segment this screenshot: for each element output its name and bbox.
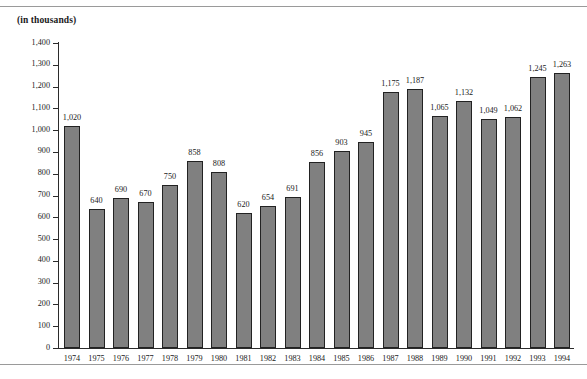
bar-item[interactable]: 1,1321990 — [456, 0, 472, 348]
bar-value-label: 670 — [139, 190, 151, 198]
y-axis-tick — [53, 217, 59, 218]
bar-value-label: 808 — [213, 160, 225, 168]
bar-rect[interactable] — [162, 185, 178, 348]
bar-rect[interactable] — [334, 151, 350, 348]
bar-value-label: 1,175 — [381, 80, 399, 88]
bar-value-label: 945 — [360, 130, 372, 138]
x-axis-category-label: 1976 — [113, 355, 129, 363]
bar-item[interactable]: 6201981 — [236, 0, 252, 348]
bar-rect[interactable] — [358, 142, 374, 348]
y-axis-tick-label: 200 — [2, 300, 50, 308]
y-axis-tick — [53, 196, 59, 197]
bar-value-label: 620 — [237, 201, 249, 209]
bar-rect[interactable] — [138, 202, 154, 348]
y-axis-tick-label: 1,000 — [2, 126, 50, 134]
bar-rect[interactable] — [113, 198, 129, 348]
bar-value-label: 1,020 — [63, 114, 81, 122]
y-axis-tick-label: 600 — [2, 213, 50, 221]
y-axis-tick-label: 300 — [2, 278, 50, 286]
bar-rect[interactable] — [236, 213, 252, 348]
bar-rect[interactable] — [456, 101, 472, 348]
bar-item[interactable]: 9031985 — [334, 0, 350, 348]
y-axis-tick — [53, 152, 59, 153]
bar-item[interactable]: 9451986 — [358, 0, 374, 348]
bar-item[interactable]: 1,2451993 — [530, 0, 546, 348]
y-axis-tick — [53, 130, 59, 131]
bar-item[interactable]: 7501978 — [162, 0, 178, 348]
bar-item[interactable]: 6401975 — [89, 0, 105, 348]
bar-item[interactable]: 6901976 — [113, 0, 129, 348]
bar-value-label: 858 — [188, 149, 200, 157]
y-axis-tick-label: 800 — [2, 169, 50, 177]
bar-item[interactable]: 1,2631994 — [554, 0, 570, 348]
y-axis-tick-label-wrap: 300 — [0, 278, 50, 288]
y-axis-tick-label: 400 — [2, 256, 50, 264]
bar-value-label: 691 — [286, 185, 298, 193]
y-axis-tick-label-wrap: 100 — [0, 322, 50, 332]
bar-item[interactable]: 6701977 — [138, 0, 154, 348]
bar-rect[interactable] — [505, 117, 521, 348]
bar-item[interactable]: 1,1751987 — [383, 0, 399, 348]
bar-rect[interactable] — [285, 197, 301, 348]
y-axis-tick — [53, 174, 59, 175]
bar-chart-plot: 1,4001,3001,2001,1001,000900800700600500… — [0, 0, 587, 379]
y-axis-tick-label: 1,400 — [2, 39, 50, 47]
y-axis-tick — [53, 108, 59, 109]
bar-item[interactable]: 1,0491991 — [481, 0, 497, 348]
y-axis-tick — [53, 283, 59, 284]
bar-rect[interactable] — [530, 77, 546, 348]
bar-value-label: 856 — [311, 150, 323, 158]
y-axis-tick-label: 100 — [2, 322, 50, 330]
y-axis-tick — [53, 239, 59, 240]
bar-item[interactable]: 8581979 — [187, 0, 203, 348]
y-axis-tick-label: 500 — [2, 235, 50, 243]
y-axis-tick-label: 1,100 — [2, 104, 50, 112]
bar-value-label: 1,245 — [528, 65, 546, 73]
y-axis-tick-label-wrap: 0 — [0, 344, 50, 354]
y-axis-tick-label-wrap: 800 — [0, 169, 50, 179]
bar-value-label: 750 — [164, 173, 176, 181]
bar-rect[interactable] — [211, 172, 227, 348]
bar-item[interactable]: 8561984 — [309, 0, 325, 348]
x-axis-category-label: 1987 — [382, 355, 398, 363]
bar-rect[interactable] — [407, 89, 423, 348]
y-axis-tick — [53, 261, 59, 262]
x-axis-category-label: 1974 — [64, 355, 80, 363]
y-axis-tick-label-wrap: 500 — [0, 235, 50, 245]
bar-rect[interactable] — [187, 161, 203, 348]
bar-rect[interactable] — [309, 162, 325, 348]
y-axis-tick-label-wrap: 1,200 — [0, 82, 50, 92]
bar-value-label: 1,132 — [455, 89, 473, 97]
x-axis-category-label: 1980 — [211, 355, 227, 363]
bar-rect[interactable] — [383, 92, 399, 348]
bar-rect[interactable] — [64, 126, 80, 348]
y-axis-tick — [53, 43, 59, 44]
y-axis-tick-label: 1,200 — [2, 82, 50, 90]
bar-rect[interactable] — [481, 119, 497, 348]
bar-value-label: 903 — [335, 139, 347, 147]
bar-value-label: 1,065 — [430, 104, 448, 112]
bar-rect[interactable] — [554, 73, 570, 348]
bar-rect[interactable] — [260, 206, 276, 348]
x-axis-category-label: 1994 — [554, 355, 570, 363]
bar-item[interactable]: 1,0651989 — [432, 0, 448, 348]
bar-item[interactable]: 6911983 — [285, 0, 301, 348]
y-axis-tick-label-wrap: 1,000 — [0, 126, 50, 136]
bar-item[interactable]: 1,0201974 — [64, 0, 80, 348]
y-axis-tick-label-wrap: 600 — [0, 213, 50, 223]
x-axis-category-label: 1983 — [284, 355, 300, 363]
bar-item[interactable]: 1,0621992 — [505, 0, 521, 348]
x-axis-category-label: 1989 — [431, 355, 447, 363]
y-axis-tick-label-wrap: 1,400 — [0, 39, 50, 49]
bar-rect[interactable] — [89, 209, 105, 348]
bar-value-label: 690 — [115, 186, 127, 194]
bar-item[interactable]: 8081980 — [211, 0, 227, 348]
x-axis-category-label: 1979 — [186, 355, 202, 363]
bar-rect[interactable] — [432, 116, 448, 348]
y-axis-tick-label-wrap: 1,300 — [0, 60, 50, 70]
bar-item[interactable]: 6541982 — [260, 0, 276, 348]
bar-value-label: 1,062 — [504, 105, 522, 113]
x-axis-category-label: 1975 — [88, 355, 104, 363]
bar-item[interactable]: 1,1871988 — [407, 0, 423, 348]
x-axis-category-label: 1988 — [407, 355, 423, 363]
